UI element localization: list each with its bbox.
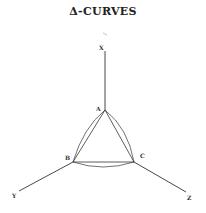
edge-ab [73,110,105,162]
curve-bc [73,162,134,167]
stray-mark [103,33,107,35]
y-axis-line [19,162,73,191]
label-y: Y [11,192,17,199]
label-x: X [99,44,104,51]
edge-ac [105,110,134,162]
label-b: B [65,154,70,161]
delta-curves-diagram: X A B C Y Z [0,0,206,213]
label-a: A [95,105,101,112]
label-z: Z [187,194,192,201]
z-axis-line [134,162,186,192]
label-c: C [140,152,145,159]
